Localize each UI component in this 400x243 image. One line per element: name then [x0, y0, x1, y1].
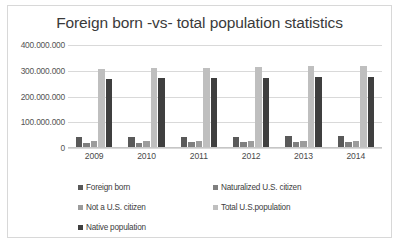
bar-groups: [68, 45, 382, 147]
legend-label: Native population: [86, 223, 146, 232]
bar: [158, 78, 165, 147]
bar: [353, 141, 360, 147]
legend-swatch-icon: [78, 205, 83, 210]
bar: [308, 66, 315, 147]
bar: [338, 136, 345, 147]
chart-title: Foreign born -vs- total population stati…: [8, 14, 391, 32]
bar: [203, 68, 210, 147]
legend-item: Native population: [78, 217, 213, 237]
bar: [315, 77, 322, 147]
legend-swatch-icon: [78, 185, 83, 190]
chart-card: Foreign born -vs- total population stati…: [7, 5, 392, 238]
x-tick-label: 2012: [225, 151, 277, 161]
bar: [240, 142, 247, 147]
legend-item: Naturalized U.S. citizen: [213, 177, 348, 197]
y-tick-label: 100.000.000: [21, 117, 65, 127]
bar: [98, 69, 105, 147]
bar: [76, 137, 83, 147]
y-axis: 0100.000.000200.000.000300.000.000400.00…: [8, 45, 65, 148]
bar: [360, 66, 367, 147]
legend-item: Foreign born: [78, 177, 213, 197]
bar: [128, 137, 135, 147]
x-tick-label: 2011: [173, 151, 225, 161]
y-tick-label: 200.000.000: [21, 92, 65, 102]
bar: [368, 77, 375, 147]
bar: [300, 141, 307, 147]
x-tick-label: 2010: [120, 151, 172, 161]
bar: [83, 143, 90, 147]
bar: [136, 143, 143, 147]
legend-item: Total U.S.population: [213, 197, 348, 217]
gridline: [68, 148, 382, 149]
bar-group: [68, 45, 120, 147]
x-tick-label: 2009: [68, 151, 120, 161]
bar-group: [120, 45, 172, 147]
bar: [91, 141, 98, 147]
legend-label: Not a U.S. citizen: [86, 203, 146, 212]
legend-swatch-icon: [213, 205, 218, 210]
legend-label: Naturalized U.S. citizen: [221, 183, 301, 192]
bar: [293, 142, 300, 147]
bar-group: [330, 45, 382, 147]
y-tick-label: 300.000.000: [21, 66, 65, 76]
bar: [285, 136, 292, 147]
bar: [106, 79, 113, 147]
bar: [248, 141, 255, 147]
bar: [181, 137, 188, 147]
bar-group: [225, 45, 277, 147]
bar: [255, 67, 262, 147]
bar: [196, 141, 203, 147]
y-tick-label: 0: [61, 143, 65, 153]
legend-item: Not a U.S. citizen: [78, 197, 213, 217]
y-tick-label: 400.000.000: [21, 40, 65, 50]
bar: [188, 142, 195, 147]
legend-label: Foreign born: [86, 183, 130, 192]
legend-swatch-icon: [78, 225, 83, 230]
bar: [345, 142, 352, 147]
bar-group: [277, 45, 329, 147]
x-tick-label: 2013: [277, 151, 329, 161]
bar: [233, 137, 240, 147]
x-axis: 200920102011201220132014: [68, 151, 382, 161]
legend-swatch-icon: [213, 185, 218, 190]
bar: [263, 78, 270, 147]
bar: [143, 141, 150, 147]
chart-legend: Foreign bornNaturalized U.S. citizenNot …: [78, 177, 348, 237]
x-tick-label: 2014: [330, 151, 382, 161]
bar-group: [173, 45, 225, 147]
bar: [151, 68, 158, 147]
bar: [211, 78, 218, 147]
legend-label: Total U.S.population: [221, 203, 290, 212]
